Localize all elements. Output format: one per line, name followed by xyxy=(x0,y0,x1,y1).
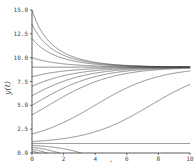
solution-curve xyxy=(32,68,190,115)
solution-curve xyxy=(32,68,190,106)
solution-curve xyxy=(32,24,190,67)
y-tick-label: 10.0 xyxy=(14,54,29,61)
solution-curve xyxy=(32,71,190,134)
x-tick-label: 10 xyxy=(186,155,194,162)
y-tick-label: 5.0 xyxy=(17,101,28,108)
y-axis-label: y(t) xyxy=(3,81,12,96)
solution-curve xyxy=(32,10,190,67)
x-tick-label: 0 xyxy=(30,155,34,162)
solution-curve xyxy=(32,58,190,67)
solution-curve xyxy=(32,84,190,141)
x-tick-label: 2 xyxy=(62,155,66,162)
x-axis-label: t xyxy=(109,159,113,162)
x-tick-label: 4 xyxy=(93,155,97,162)
x-tick-label: 8 xyxy=(157,155,161,162)
x-tick-label: 6 xyxy=(125,155,129,162)
y-tick-label: 15.0 xyxy=(14,6,29,13)
line-chart: 0.02.55.07.510.012.515.0 0246810 y(t) t xyxy=(0,0,194,162)
solution-curve xyxy=(32,149,47,153)
y-axis: 0.02.55.07.510.012.515.0 xyxy=(14,6,32,156)
solution-curves xyxy=(32,10,190,153)
y-tick-label: 7.5 xyxy=(17,78,28,85)
y-tick-label: 12.5 xyxy=(14,30,29,37)
y-tick-label: 2.5 xyxy=(17,125,28,132)
y-tick-label: 0.0 xyxy=(17,149,28,156)
